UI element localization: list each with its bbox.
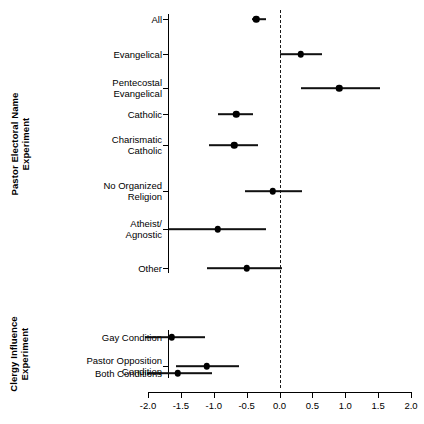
row-tick bbox=[163, 191, 169, 192]
point-estimate-marker bbox=[336, 85, 343, 92]
row-label-pentecostal-evangelical: Pentecostal Evangelical bbox=[112, 77, 162, 99]
row-label-evangelical: Evangelical bbox=[113, 49, 162, 60]
group-title-2: Clergy Influence Experiment bbox=[8, 300, 30, 408]
x-axis-tick bbox=[280, 392, 281, 398]
x-axis-tick-label: 1.5 bbox=[372, 400, 385, 411]
x-axis-tick-label: -0.5 bbox=[238, 400, 254, 411]
x-axis-tick bbox=[411, 392, 412, 398]
point-estimate-marker bbox=[231, 142, 238, 149]
row-tick bbox=[163, 366, 169, 367]
x-axis-tick-label: 2.0 bbox=[404, 400, 417, 411]
group-title-1: Pastor Electoral Name Experiment bbox=[8, 0, 30, 303]
x-axis-tick bbox=[181, 392, 182, 398]
x-axis-tick bbox=[247, 392, 248, 398]
point-estimate-marker bbox=[214, 226, 221, 233]
x-axis-tick bbox=[214, 392, 215, 398]
row-label-atheist-agnostic: Atheist/ Agnostic bbox=[126, 218, 162, 240]
row-label-charismatic-catholic: Charismatic Catholic bbox=[112, 134, 162, 156]
row-label-other: Other bbox=[138, 263, 162, 274]
row-tick bbox=[163, 145, 169, 146]
zero-reference-line bbox=[280, 10, 281, 388]
x-axis-tick-label: -1.5 bbox=[173, 400, 189, 411]
row-tick bbox=[163, 88, 169, 89]
x-axis-tick-label: 1.0 bbox=[339, 400, 352, 411]
point-estimate-marker bbox=[203, 363, 210, 370]
point-estimate-marker bbox=[168, 334, 175, 341]
row-tick bbox=[163, 268, 169, 269]
forest-plot-figure: Pastor Electoral Name ExperimentAllEvang… bbox=[0, 0, 424, 424]
x-axis-tick-label: 0.5 bbox=[306, 400, 319, 411]
point-estimate-marker bbox=[297, 51, 304, 58]
x-axis-tick bbox=[148, 392, 149, 398]
point-estimate-marker bbox=[270, 188, 277, 195]
x-axis-tick-label: -1.0 bbox=[206, 400, 222, 411]
row-label-catholic: Catholic bbox=[128, 109, 162, 120]
x-axis-tick bbox=[378, 392, 379, 398]
row-tick bbox=[163, 54, 169, 55]
point-estimate-marker bbox=[243, 265, 250, 272]
x-axis-tick bbox=[312, 392, 313, 398]
row-label-all: All bbox=[151, 14, 162, 25]
point-estimate-marker bbox=[174, 370, 181, 377]
row-tick bbox=[163, 19, 169, 20]
x-axis-tick-label: -2.0 bbox=[140, 400, 156, 411]
row-tick bbox=[163, 114, 169, 115]
x-axis-tick-label: 0.0 bbox=[273, 400, 286, 411]
row-label-no-organized-religion: No Organized Religion bbox=[103, 180, 162, 202]
point-estimate-marker bbox=[233, 111, 240, 118]
panel-axis-spine-1 bbox=[168, 14, 169, 273]
point-estimate-marker bbox=[253, 16, 260, 23]
x-axis-tick bbox=[345, 392, 346, 398]
